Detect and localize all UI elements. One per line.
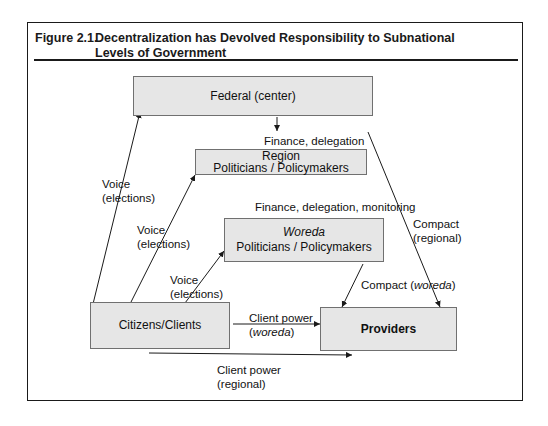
node-woreda-title: Woreda <box>283 225 325 240</box>
node-woreda-subtitle: Politicians / Policymakers <box>236 240 371 255</box>
node-region-subtitle: Politicians / Policymakers <box>213 162 348 174</box>
arrow-compact-woreda <box>342 264 363 307</box>
label-voice-federal: Voice (elections) <box>102 177 155 205</box>
node-federal: Federal (center) <box>133 76 373 116</box>
node-providers: Providers <box>320 307 457 351</box>
label-client-power-woreda: Client power (woreda) <box>249 311 313 339</box>
label-client-power-regional: Client power (regional) <box>217 363 281 391</box>
label-finance-delegation: Finance, delegation <box>264 134 364 148</box>
arrow-voice-federal <box>93 112 140 304</box>
label-voice-woreda: Voice (elections) <box>170 273 223 301</box>
node-region: Region Politicians / Policymakers <box>195 149 367 175</box>
label-voice-region: Voice (elections) <box>137 223 190 251</box>
label-compact-regional: Compact (regional) <box>413 217 462 245</box>
node-providers-label: Providers <box>361 322 416 337</box>
node-citizens-label: Citizens/Clients <box>119 318 202 333</box>
node-federal-label: Federal (center) <box>210 89 295 104</box>
arrow-client-power-regional <box>149 353 352 355</box>
node-woreda: Woreda Politicians / Policymakers <box>224 218 384 262</box>
node-citizens: Citizens/Clients <box>90 302 230 349</box>
label-compact-woreda: Compact (woreda) <box>361 278 456 292</box>
label-finance-delegation-monitoring: Finance, delegation, monitoring <box>255 200 415 214</box>
